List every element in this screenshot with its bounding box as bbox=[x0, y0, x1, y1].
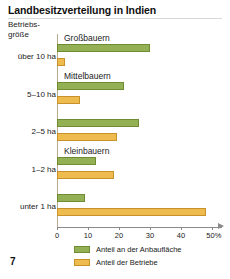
legend-label-anbauflaeche: Anteil an der Anbaufläche bbox=[96, 245, 181, 254]
legend-swatch-orange-icon bbox=[74, 259, 90, 266]
bar-betriebe-4 bbox=[57, 208, 206, 216]
x-axis-line bbox=[57, 227, 222, 228]
legend-item-betriebe: Anteil der Betriebe bbox=[74, 257, 181, 268]
legend-swatch-green-icon bbox=[74, 246, 90, 253]
title-divider bbox=[8, 18, 222, 19]
y-category-label-0: über 10 ha bbox=[18, 52, 56, 61]
legend-item-anbauflaeche: Anteil an der Anbaufläche bbox=[74, 244, 181, 255]
x-tick-label-40: 40 bbox=[177, 231, 185, 240]
x-tick-40 bbox=[181, 227, 182, 230]
y-category-label-3: 1–2 ha bbox=[32, 165, 56, 174]
x-tick-label-30: 30 bbox=[146, 231, 154, 240]
y-category-label-1: 5–10 ha bbox=[27, 90, 56, 99]
y-axis-label-line2: größe bbox=[8, 30, 56, 40]
y-axis-label-line1: Betriebs- bbox=[8, 20, 56, 30]
bar-anbauflaeche-2 bbox=[57, 119, 139, 127]
x-tick-0 bbox=[57, 227, 58, 230]
x-tick-label-0: 0 bbox=[55, 231, 59, 240]
chart-legend: Anteil an der Anbaufläche Anteil der Bet… bbox=[74, 244, 181, 270]
x-tick-50 bbox=[212, 227, 213, 230]
page-number: 7 bbox=[10, 256, 16, 267]
bar-anbauflaeche-1 bbox=[57, 82, 124, 90]
x-tick-10 bbox=[88, 227, 89, 230]
x-tick-label-50: 50% bbox=[206, 231, 221, 240]
x-tick-30 bbox=[150, 227, 151, 230]
bar-anbauflaeche-3 bbox=[57, 157, 96, 165]
x-tick-label-10: 10 bbox=[84, 231, 92, 240]
bar-betriebe-2 bbox=[57, 133, 117, 141]
y-category-label-4: unter 1 ha bbox=[20, 202, 56, 211]
x-tick-20 bbox=[119, 227, 120, 230]
bar-betriebe-0 bbox=[57, 58, 65, 66]
bar-anbauflaeche-4 bbox=[57, 194, 85, 202]
page-title: Landbesitzverteilung in Indien bbox=[8, 4, 156, 16]
group-note-mittelbauern: Mittelbauern bbox=[64, 71, 111, 81]
bar-betriebe-3 bbox=[57, 171, 114, 179]
x-tick-label-20: 20 bbox=[115, 231, 123, 240]
bar-betriebe-1 bbox=[57, 96, 80, 104]
x-axis-arrow-icon bbox=[218, 223, 224, 229]
bar-anbauflaeche-0 bbox=[57, 44, 150, 52]
group-note-großbauern: Großbauern bbox=[64, 33, 110, 43]
legend-label-betriebe: Anteil der Betriebe bbox=[96, 258, 158, 267]
group-note-kleinbauern: Kleinbauern bbox=[64, 146, 109, 156]
y-category-label-2: 2–5 ha bbox=[32, 127, 56, 136]
chart-figure: Landbesitzverteilung in Indien Betriebs-… bbox=[0, 0, 230, 279]
y-axis-label: Betriebs- größe bbox=[8, 20, 56, 39]
